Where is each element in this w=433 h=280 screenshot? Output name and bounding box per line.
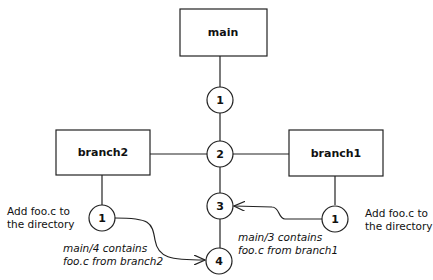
branch2-box: branch2 xyxy=(56,130,150,175)
svg-text:main/4 contains: main/4 contains xyxy=(63,242,148,254)
svg-text:Add foo.c to: Add foo.c to xyxy=(365,207,428,219)
svg-text:foo.c from branch2: foo.c from branch2 xyxy=(63,255,163,267)
svg-text:1: 1 xyxy=(98,212,106,225)
branch-merge-diagram: main branch2 branch1 1 2 3 4 1 1 Add foo… xyxy=(0,0,433,280)
node-main-1: 1 xyxy=(207,87,233,113)
branch1-box: branch1 xyxy=(289,130,383,176)
svg-text:the directory: the directory xyxy=(7,218,75,230)
main-label: main xyxy=(208,26,239,39)
branch2-label: branch2 xyxy=(78,146,129,159)
svg-text:foo.c from branch1: foo.c from branch1 xyxy=(238,244,338,256)
note-merge-branch1: main/3 contains foo.c from branch1 xyxy=(238,231,338,256)
node-main-4: 4 xyxy=(206,248,232,274)
svg-text:main/3 contains: main/3 contains xyxy=(238,231,323,243)
note-branch2-add: Add foo.c to the directory xyxy=(7,205,75,230)
node-branch1-1: 1 xyxy=(322,206,348,232)
note-merge-branch2: main/4 contains foo.c from branch2 xyxy=(63,242,163,267)
svg-text:Add foo.c to: Add foo.c to xyxy=(7,205,70,217)
node-main-3: 3 xyxy=(207,193,233,219)
branch1-label: branch1 xyxy=(311,147,362,160)
svg-text:the directory: the directory xyxy=(365,220,433,232)
svg-text:3: 3 xyxy=(216,200,224,213)
svg-text:1: 1 xyxy=(331,213,339,226)
node-branch2-1: 1 xyxy=(89,205,115,231)
node-main-2: 2 xyxy=(207,141,233,167)
svg-text:1: 1 xyxy=(216,94,224,107)
main-box: main xyxy=(180,9,267,56)
merge-arrow-branch1 xyxy=(234,206,322,219)
svg-text:4: 4 xyxy=(215,255,223,268)
note-branch1-add: Add foo.c to the directory xyxy=(365,207,433,232)
svg-text:2: 2 xyxy=(216,148,224,161)
